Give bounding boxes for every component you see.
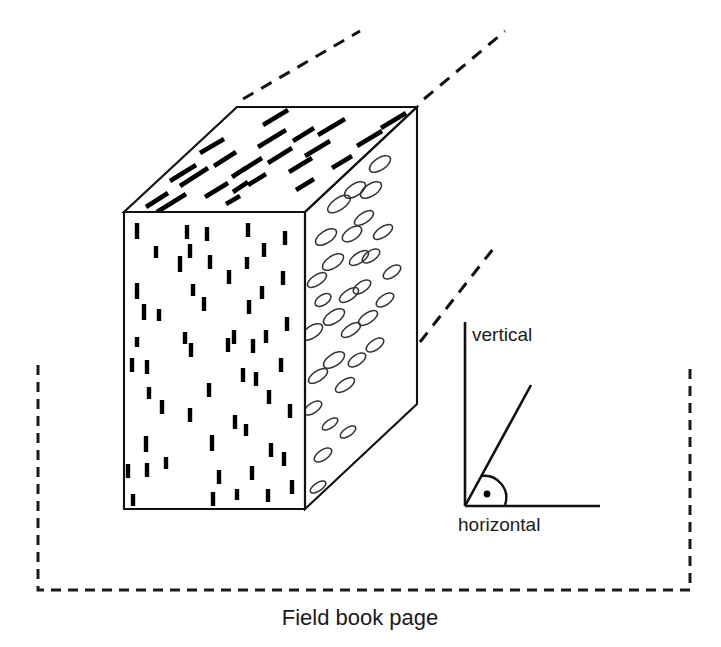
pore-outline	[381, 262, 403, 281]
figure-canvas: vertical horizontal Field book page	[0, 0, 721, 647]
angle-dot-icon	[484, 491, 491, 498]
pore-outline	[374, 290, 396, 309]
pore-outline	[308, 479, 327, 496]
pore-outline	[346, 350, 368, 369]
bedding-trace-dash	[332, 156, 352, 168]
bedding-trace-dash	[341, 176, 358, 186]
pore-outline	[313, 291, 334, 309]
pore-outline	[360, 246, 382, 265]
front-face-pattern	[128, 223, 292, 506]
pore-outline	[356, 308, 380, 329]
pore-outline	[325, 192, 353, 216]
pore-outline	[313, 225, 340, 248]
pore-outline	[299, 320, 326, 343]
bedding-trace-dash	[378, 176, 394, 186]
pore-outline	[347, 248, 371, 269]
bedding-trace-dash	[293, 128, 314, 141]
bedding-trace-dash	[200, 139, 224, 153]
pore-outline	[352, 208, 376, 229]
bedding-trace-dash	[318, 119, 345, 135]
bedding-trace-dash	[392, 139, 410, 150]
bedding-trace-dash	[243, 158, 262, 170]
pore-outline	[367, 152, 394, 175]
pore-outline	[351, 277, 373, 296]
dashed-leader-lines	[243, 31, 505, 342]
dip-angle-inset: vertical horizontal	[458, 322, 600, 535]
figure-caption: Field book page	[282, 605, 439, 630]
page-border-path	[38, 362, 690, 590]
bedding-trace-dash	[289, 158, 312, 172]
bedding-trace-dash	[226, 196, 240, 204]
pore-outline	[321, 348, 348, 371]
pore-outline	[320, 416, 339, 433]
bedding-trace-dash	[268, 148, 292, 163]
bedding-trace-dash	[214, 152, 236, 166]
pore-outline	[314, 162, 345, 189]
block-front-face	[124, 212, 305, 509]
bedding-trace-dash	[263, 110, 288, 125]
angle-arc-icon	[481, 476, 506, 505]
horizontal-label: horizontal	[458, 514, 540, 535]
leader-top-left-icon	[243, 31, 360, 99]
pore-outline	[312, 445, 334, 464]
pore-outline	[338, 424, 357, 441]
block-right-face	[305, 107, 417, 509]
diagram-svg: vertical horizontal Field book page	[0, 0, 721, 647]
pore-outline	[320, 250, 347, 273]
pore-outline	[333, 375, 357, 396]
bedding-trace-dash	[205, 183, 228, 197]
pore-outline	[321, 305, 348, 328]
bedding-trace-dash	[305, 141, 330, 156]
inclined-dip-line	[465, 385, 531, 506]
bedding-trace-dash	[258, 130, 286, 147]
pore-outline	[371, 222, 395, 243]
field-book-page-border	[38, 362, 690, 590]
pore-outline	[305, 270, 329, 291]
right-face-pattern	[299, 150, 403, 496]
vertical-label: vertical	[472, 324, 532, 345]
bedding-trace-dash	[248, 174, 266, 185]
pore-outline	[340, 223, 365, 245]
bedding-trace-dash	[233, 182, 248, 192]
pore-outline	[339, 320, 363, 341]
leader-top-right-icon	[424, 31, 505, 99]
pore-outline	[364, 335, 386, 354]
pore-outline	[337, 285, 361, 306]
bedding-trace-dash	[296, 179, 314, 190]
